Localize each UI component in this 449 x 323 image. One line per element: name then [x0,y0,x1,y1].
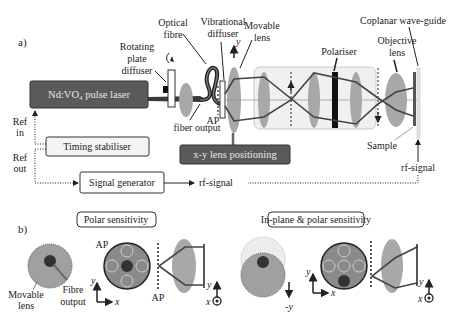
inplane-sensitivity-title: In-plane & polar sensitivity [261,214,371,225]
minus-y-label: -y [285,301,293,312]
signal-generator-label: Signal generator [89,177,155,188]
b-movable-label-1: Movable [8,289,44,300]
b-ap-label-1: AP [96,239,109,250]
movable-label-2: lens [254,32,270,43]
axis-x-label: x [114,296,120,307]
optical-label-2: fibre [164,29,183,40]
setup-diagram: a) Nd:VO₄ pulse laser Rotating plate dif… [0,0,449,323]
ref-out-label-1: Ref [13,152,28,163]
xy-positioning-label: x-y lens positioning [193,149,277,160]
polariser-label: Polariser [321,46,357,57]
side-y-label: y [206,279,212,290]
objective-label-2: lens [389,47,405,58]
polar-sensitivity-title: Polar sensitivity [84,214,149,225]
ref-out-label-2: out [14,163,27,174]
coplanar-waveguide [417,68,420,138]
axis-y-label: y [90,275,96,286]
vibrational-label-1: Vibrational [201,16,246,27]
axis-y-label-2: y [305,266,311,277]
side-x-label-2: x [417,293,423,304]
timing-stabiliser-box: Timing stabiliser [46,137,149,156]
sample [413,72,416,126]
panel-b-label: b) [18,223,28,236]
b-ap-label-2: AP [152,292,165,303]
movable-label-1: Movable [244,20,280,31]
side-x-label: x [205,296,211,307]
side-y-label-2: y [418,276,424,287]
objective-lens [385,73,407,127]
ref-in-label-1: Ref [13,116,28,127]
coupling-lens [179,83,193,117]
b-fibre-label-2: output [60,296,86,307]
b-movable-label-2: lens [18,300,34,311]
ap-label: AP [207,115,220,126]
signal-generator-box: Signal generator [80,172,164,193]
rotation-arrow-icon [170,56,174,62]
laser-beam [148,96,205,102]
b-fibre-label-1: Fibre [62,284,84,295]
relay-lens-2 [308,72,320,128]
vibrational-label-2: diffuser [208,28,240,39]
rotating-label-3: diffuser [122,65,154,76]
laser-box: Nd:VO₄ pulse laser [30,81,148,108]
rf-signal-mid-label: rf-signal [199,177,233,188]
rf-signal-right-label: rf-signal [401,162,435,173]
panel-a-label: a) [18,36,27,49]
y-axis-label: y [235,36,241,47]
ref-in-label-2: in [16,127,24,138]
waveguide-label: Coplanar wave-guide [360,15,446,26]
laser-label: Nd:VO₄ pulse laser [48,89,130,100]
xy-lens-positioning-box: x-y lens positioning [180,145,290,164]
rotating-label-2: plate [127,53,147,64]
axis-x-label-2: x [330,287,336,298]
optical-label-1: Optical [158,17,188,28]
timing-stabiliser-label: Timing stabiliser [63,141,131,152]
sample-label: Sample [367,140,398,151]
rotating-label-1: Rotating [120,41,154,52]
vibrational-diffuser [220,81,225,118]
